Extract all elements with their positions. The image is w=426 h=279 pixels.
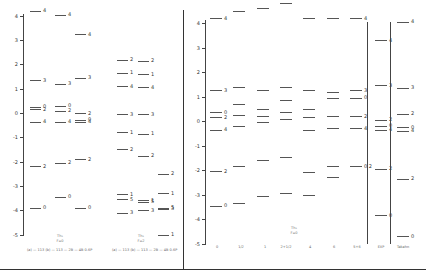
level-line [158, 235, 169, 236]
level-line [350, 128, 362, 129]
level-line [210, 117, 222, 118]
right-y-tick-label: 3 [190, 45, 200, 51]
level-line [257, 122, 269, 123]
level-line [397, 179, 409, 180]
right-y-tick [202, 121, 205, 122]
level-line [138, 87, 149, 88]
level-label: 4 [130, 84, 133, 89]
right-y-axis [205, 20, 206, 245]
level-line [257, 160, 269, 161]
level-label: 3 [88, 75, 91, 80]
right-y-tick-label: 4 [190, 20, 200, 26]
level-line [280, 100, 292, 101]
level-line [397, 236, 409, 237]
right-y-tick-label: -5 [190, 241, 200, 247]
level-label: 1 [171, 191, 174, 196]
left-y-tick-label: -3 [8, 183, 18, 189]
level-label: 1 [171, 232, 174, 237]
level-line [117, 114, 128, 115]
level-line [280, 112, 292, 113]
left-y-tick-label: 3 [8, 37, 18, 43]
level-line [158, 174, 169, 175]
level-line [117, 60, 128, 61]
level-line [280, 87, 292, 88]
level-label: 1 [130, 130, 133, 135]
level-line [397, 131, 409, 132]
level-line [117, 199, 128, 200]
level-label: 3 [130, 112, 133, 117]
level-line [327, 98, 339, 99]
level-line [75, 159, 86, 160]
level-label: 5 [130, 197, 133, 202]
level-line [30, 109, 41, 110]
level-line [75, 113, 86, 114]
level-line [30, 107, 41, 108]
level-line [233, 87, 245, 88]
right-y-tick [202, 146, 205, 147]
level-label: 2 [411, 176, 414, 181]
level-label: 2 [171, 171, 174, 176]
level-line [303, 130, 315, 131]
right-y-tick-label: -2 [190, 167, 200, 173]
left-y-tick-label: -2 [8, 159, 18, 165]
right-y-tick-label: -3 [190, 192, 200, 198]
left-y-tick [20, 89, 23, 90]
right-y-tick [202, 170, 205, 171]
level-line [210, 18, 222, 19]
x-axis-label: 1/2 [231, 245, 251, 249]
level-line [55, 111, 66, 112]
level-line [75, 122, 86, 123]
level-label: 4 [151, 85, 154, 90]
level-line [327, 166, 339, 167]
level-label: 0 [43, 205, 46, 210]
level-line [30, 11, 41, 12]
level-label: 4 [88, 119, 91, 124]
level-label: 2 [68, 160, 71, 165]
level-label: 0 [411, 234, 414, 239]
right-y-tick [202, 23, 205, 24]
left-y-tick [20, 210, 23, 211]
level-label: 0 [88, 205, 91, 210]
level-line [375, 85, 387, 86]
left-y-tick [20, 186, 23, 187]
level-line [117, 194, 128, 195]
bottom-rule [0, 269, 426, 270]
level-line [117, 213, 128, 214]
level-label: 2 [151, 58, 154, 63]
level-label: 2 [224, 169, 227, 174]
level-line [210, 206, 222, 207]
level-label: 4 [411, 128, 414, 133]
level-line [210, 90, 222, 91]
level-label: 2 [151, 153, 154, 158]
x-axis-label: 6 [324, 245, 344, 249]
level-label: 2 [88, 157, 91, 162]
level-line [55, 197, 66, 198]
level-line [257, 116, 269, 117]
level-line [117, 73, 128, 74]
left-y-tick [20, 137, 23, 138]
level-line [303, 18, 315, 19]
x-axis-label: 1 [255, 245, 275, 249]
level-line [375, 126, 387, 127]
level-line [233, 104, 245, 105]
level-line [233, 126, 245, 127]
level-label: 2 [411, 111, 414, 116]
level-label: 1 [151, 72, 154, 77]
level-line [30, 166, 41, 167]
level-line [138, 202, 149, 203]
level-line [138, 74, 149, 75]
level-line [117, 86, 128, 87]
level-label: 3 [130, 210, 133, 215]
left-y-axis [23, 14, 24, 236]
level-label: 3 [151, 208, 154, 213]
level-line [233, 115, 245, 116]
level-line [397, 127, 409, 128]
level-line [303, 195, 315, 196]
level-label: 5 [151, 199, 154, 204]
level-line [210, 171, 222, 172]
group-sub: F=2 [131, 239, 151, 243]
left-y-tick [20, 113, 23, 114]
x-axis-label: 0 [207, 245, 227, 249]
left-y-tick [20, 64, 23, 65]
level-label: 2 [88, 111, 91, 116]
